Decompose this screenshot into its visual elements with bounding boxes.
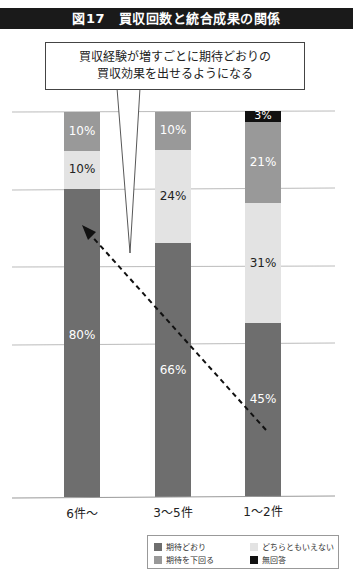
bar-3to5 (155, 112, 191, 497)
legend-label-neither: どちらともいえない (262, 541, 334, 552)
category-label-6plus: 6件〜 (52, 504, 112, 521)
legend-label-below: 期待を下回る (166, 554, 214, 565)
label-6plus-below: 10% (62, 124, 102, 138)
label-6plus-as-expected: 80% (62, 328, 102, 342)
label-1to2-neither: 31% (243, 256, 283, 270)
label-1to2-below: 21% (243, 155, 283, 169)
callout-line-2: 買収効果を出せるようになる (46, 66, 304, 83)
legend-swatch-no-answer (250, 556, 258, 564)
label-3to5-neither: 24% (153, 189, 193, 203)
legend-swatch-neither (250, 543, 258, 551)
category-label-1to2: 1〜2件 (233, 502, 293, 519)
legend-item-below: 期待を下回る (154, 554, 214, 565)
legend: 期待どおり どちらともいえない 期待を下回る 無回答 (147, 535, 339, 569)
legend-item-neither: どちらともいえない (250, 541, 334, 552)
callout-line-1: 買収経験が増すごとに期待どおりの (46, 49, 304, 66)
callout-pointer (117, 88, 140, 253)
legend-item-no-answer: 無回答 (250, 554, 286, 565)
label-3to5-as-expected: 66% (153, 363, 193, 377)
label-6plus-neither: 10% (62, 162, 102, 176)
label-3to5-below: 10% (153, 123, 193, 137)
legend-item-as-expected: 期待どおり (154, 541, 206, 552)
legend-label-as-expected: 期待どおり (166, 541, 206, 552)
callout-box: 買収経験が増すごとに期待どおりの 買収効果を出せるようになる (45, 42, 305, 90)
label-1to2-as-expected: 45% (243, 392, 283, 406)
legend-swatch-below (154, 556, 162, 564)
legend-label-no-answer: 無回答 (262, 554, 286, 565)
label-1to2-no-answer: 3% (243, 109, 283, 122)
category-label-3to5: 3〜5件 (143, 503, 203, 520)
legend-swatch-as-expected (154, 543, 162, 551)
